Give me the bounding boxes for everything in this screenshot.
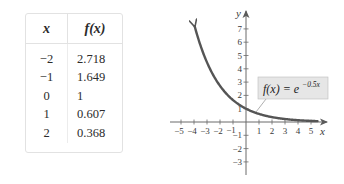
y-tick-label: 3 bbox=[238, 77, 243, 87]
x-tick-label: −4 bbox=[187, 126, 197, 136]
x-tick-label: −2 bbox=[213, 126, 223, 136]
y-tick-label: −3 bbox=[232, 157, 242, 167]
x-tick-label: 5 bbox=[309, 126, 314, 136]
equation-prefix: f(x) = e bbox=[263, 82, 300, 96]
function-curve bbox=[195, 26, 318, 121]
y-tick-label: 7 bbox=[238, 24, 243, 34]
y-tick-label: −1 bbox=[232, 130, 242, 140]
y-tick-label: 5 bbox=[238, 51, 243, 61]
y-tick-label: −2 bbox=[232, 144, 242, 154]
annotation-leader-line bbox=[256, 99, 266, 112]
x-tick-label: −3 bbox=[200, 126, 210, 136]
x-tick-label: −5 bbox=[174, 126, 184, 136]
x-tick-label: 4 bbox=[296, 126, 301, 136]
y-tick-label: 2 bbox=[238, 90, 243, 100]
x-tick-label: 1 bbox=[257, 126, 262, 136]
y-tick-label: 4 bbox=[238, 64, 243, 74]
y-tick-label: 6 bbox=[238, 37, 243, 47]
x-tick-label: 3 bbox=[283, 126, 288, 136]
x-tick-label: 2 bbox=[270, 126, 275, 136]
exponential-graph: −5−4−3−2−112345 7654321−1−2−3 x y f(x) =… bbox=[0, 0, 344, 184]
equation-exponent: −0.5x bbox=[302, 80, 320, 89]
y-axis-label: y bbox=[235, 7, 241, 19]
x-axis-label: x bbox=[319, 125, 325, 137]
